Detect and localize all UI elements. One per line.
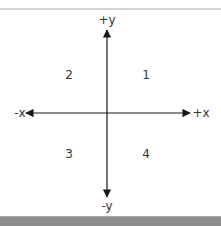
quadrant-3-label: 3 (65, 147, 73, 161)
bottom-bar (0, 216, 221, 226)
quadrant-diagram: +y -y -x +x 1 2 3 4 (0, 0, 221, 226)
positive-x-label: +x (192, 106, 209, 120)
quadrant-1-label: 1 (142, 68, 150, 82)
negative-y-label: -y (101, 199, 112, 213)
quadrant-2-label: 2 (65, 68, 73, 82)
positive-y-label: +y (98, 13, 115, 27)
quadrant-4-label: 4 (142, 147, 150, 161)
negative-x-label: -x (14, 106, 25, 120)
